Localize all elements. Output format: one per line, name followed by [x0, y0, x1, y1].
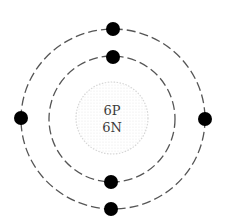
protons-label: 6P [103, 103, 120, 118]
electron-inner-bottom [104, 175, 118, 189]
neutrons-label: 6N [102, 120, 122, 135]
electron-outer-top [106, 22, 120, 36]
electron-inner-top [106, 50, 120, 64]
atom-diagram: 6P 6N [0, 0, 232, 224]
electron-outer-right [198, 112, 212, 126]
nucleus: 6P 6N [76, 82, 148, 154]
electron-outer-left [14, 111, 28, 125]
electron-outer-bottom [104, 202, 118, 216]
